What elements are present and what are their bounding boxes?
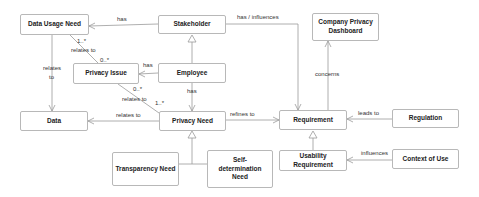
edge-label-has: has <box>143 62 153 68</box>
multiplicity-label: 0..* <box>133 86 142 92</box>
multiplicity-label: 1..* <box>77 38 86 44</box>
node-data[interactable]: Data <box>20 111 88 131</box>
edge-label-has: has <box>117 16 127 22</box>
node-context-of-use[interactable]: Context of Use <box>392 149 459 169</box>
node-regulation[interactable]: Regulation <box>392 109 459 128</box>
node-label: Employee <box>177 69 208 78</box>
edge-label-relates: relates <box>43 65 61 71</box>
node-label: Data Usage Need <box>28 20 81 29</box>
node-label: Privacy Need <box>172 117 213 126</box>
edge-label-refines-to: refines to <box>230 111 255 117</box>
edge-label-relates-to: relates to <box>116 112 141 118</box>
node-label: Company Privacy Dashboard <box>315 18 376 36</box>
node-label: Regulation <box>409 114 443 123</box>
node-data-usage-need[interactable]: Data Usage Need <box>20 14 89 35</box>
node-label: Transparency Need <box>116 165 176 174</box>
multiplicity-label: 1..* <box>155 100 164 106</box>
node-privacy-need[interactable]: Privacy Need <box>159 111 226 131</box>
node-privacy-issue[interactable]: Privacy Issue <box>73 63 139 84</box>
edge-label-influences: influences <box>361 150 388 156</box>
node-label: Self-determination Need <box>214 156 266 182</box>
node-employee[interactable]: Employee <box>158 63 226 83</box>
node-label: Context of Use <box>403 155 449 164</box>
node-usability-requirement[interactable]: Usability Requirement <box>279 150 347 171</box>
node-transparency-need[interactable]: Transparency Need <box>112 152 179 186</box>
edge-label-has: has <box>187 88 197 94</box>
node-label: Stakeholder <box>173 20 210 29</box>
node-stakeholder[interactable]: Stakeholder <box>158 15 226 34</box>
node-requirement[interactable]: Requirement <box>279 110 347 130</box>
edge-label-relates-to: relates to <box>71 47 96 53</box>
node-label: Requirement <box>293 116 333 125</box>
multiplicity-label: 0..* <box>100 57 109 63</box>
edge-label-leads-to: leads to <box>358 110 379 116</box>
edge-label-concerns: concerns <box>315 71 339 77</box>
node-label: Privacy Issue <box>85 69 127 78</box>
edge-label-relates-to: relates to <box>122 96 147 102</box>
node-self-determination-need[interactable]: Self-determination Need <box>207 150 273 188</box>
node-label: Usability Requirement <box>282 152 344 170</box>
node-company-privacy-dashboard[interactable]: Company Privacy Dashboard <box>312 13 379 41</box>
edge-label-to: to <box>49 74 54 80</box>
edge-label-has-influences: has / influences <box>237 14 279 20</box>
node-label: Data <box>47 117 61 126</box>
